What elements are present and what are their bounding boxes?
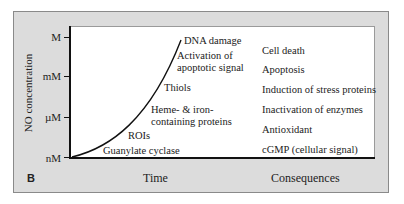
- consequence-inactivation-enzymes: Inactivation of enzymes: [262, 104, 363, 116]
- consequence-antioxidant: Antioxidant: [262, 124, 312, 136]
- consequence-cell-death: Cell death: [262, 45, 305, 57]
- consequence-stress-proteins: Induction of stress proteins: [262, 84, 376, 96]
- consequence-cgmp: cGMP (cellular signal): [262, 144, 358, 156]
- target-label-apoptotic-signal: apoptotic signal: [177, 62, 244, 74]
- concentration-curve: [0, 0, 404, 204]
- panel-letter: B: [27, 172, 35, 184]
- x-axis-label-time: Time: [143, 171, 168, 186]
- target-label-heme-iron: Heme- & iron-: [151, 104, 213, 116]
- target-label-activation: Activation of: [177, 50, 233, 62]
- x-axis-label-consequences: Consequences: [271, 171, 340, 186]
- target-label-dna-damage: DNA damage: [184, 35, 241, 47]
- target-label-rois: ROIs: [128, 130, 150, 142]
- consequence-apoptosis: Apoptosis: [262, 64, 305, 76]
- target-label-containing-proteins: containing proteins: [151, 116, 232, 128]
- target-label-guanylate-cyclase: Guanylate cyclase: [103, 145, 180, 157]
- target-label-thiols: Thiols: [164, 82, 191, 94]
